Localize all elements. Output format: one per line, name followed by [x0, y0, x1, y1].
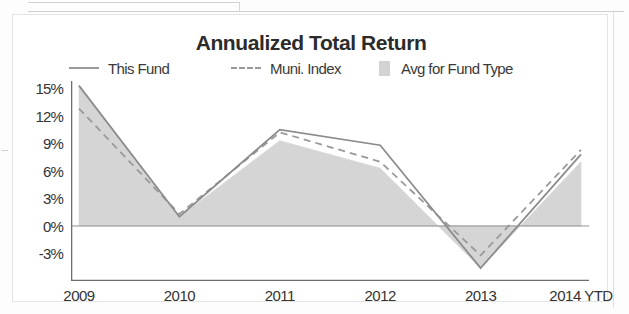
x-axis-tick-label: 2010 — [164, 287, 195, 304]
y-axis-tick-label: 0% — [43, 217, 63, 234]
x-axis-tick-label: 2014 YTD — [549, 287, 612, 304]
chart-title: Annualized Total Return — [13, 31, 609, 55]
y-axis-tick-label: 6% — [43, 162, 63, 179]
legend-label-this-fund: This Fund — [108, 60, 169, 77]
dashed-line-swatch-icon — [231, 67, 261, 69]
document-table-border-second — [28, 11, 624, 12]
legend-label-avg-for-fund-type: Avg for Fund Type — [401, 60, 513, 77]
x-axis-tick-label: 2009 — [63, 287, 94, 304]
y-axis-tick-label: 15% — [35, 80, 63, 97]
chart-plot-svg — [71, 81, 589, 281]
plot-area — [71, 81, 589, 281]
y-axis-tick-label: 12% — [35, 107, 63, 124]
chart-container: Annualized Total Return This Fund Muni. … — [12, 14, 608, 302]
solid-line-swatch-icon — [69, 67, 99, 69]
chart-legend: This Fund Muni. Index Avg for Fund Type — [59, 58, 579, 78]
legend-item-muni-index[interactable]: Muni. Index — [231, 58, 341, 78]
document-border-right — [613, 12, 614, 308]
filled-box-swatch-icon — [379, 61, 390, 76]
legend-item-this-fund[interactable]: This Fund — [69, 58, 169, 78]
x-axis-tick-label: 2011 — [265, 287, 295, 304]
y-axis-tick-label: 9% — [43, 135, 63, 152]
y-axis-tick-labels: 15%12%9%6%3%0%-3% — [13, 81, 69, 281]
document-table-border-vertical — [239, 2, 240, 12]
document-table-border-top — [28, 2, 240, 3]
y-axis-tick-label: 3% — [43, 190, 63, 207]
x-axis-tick-labels: 200920102011201220132014 YTD — [59, 287, 604, 311]
document-margin-mark — [2, 150, 8, 151]
y-axis-tick-label: -3% — [39, 245, 63, 262]
legend-item-avg-for-fund-type[interactable]: Avg for Fund Type — [379, 58, 513, 78]
legend-label-muni-index: Muni. Index — [270, 60, 341, 77]
x-axis-tick-label: 2012 — [365, 287, 396, 304]
scanned-page-background: Annualized Total Return This Fund Muni. … — [0, 0, 629, 314]
x-axis-tick-label: 2013 — [465, 287, 496, 304]
